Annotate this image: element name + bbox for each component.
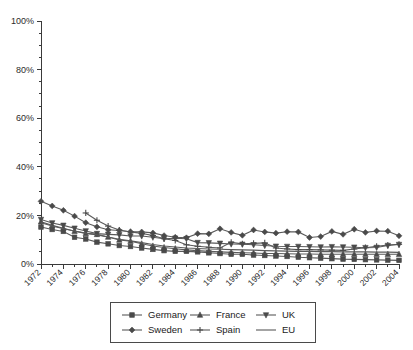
data-point-marker-square [397, 258, 402, 263]
x-axis-tick-label: 1992 [246, 267, 267, 288]
data-point-marker-diamond [396, 233, 402, 239]
legend-item-label: UK [282, 309, 296, 320]
legend-item-label: Sweden [148, 324, 182, 335]
data-point-marker-square [72, 235, 77, 240]
x-axis-tick-label: 1988 [201, 267, 222, 288]
data-point-marker-diamond [217, 226, 223, 232]
legend-item-label: EU [282, 324, 295, 335]
data-point-marker-diamond [307, 235, 313, 241]
data-point-marker-diamond [49, 203, 55, 209]
data-point-marker-diamond [295, 229, 301, 235]
x-axis-tick-label: 1984 [156, 267, 177, 288]
data-point-marker-diamond [273, 230, 279, 236]
x-axis-tick-label: 1996 [290, 267, 311, 288]
y-axis-tick-label: 20% [16, 211, 34, 221]
data-point-marker-diamond [239, 232, 245, 238]
data-point-marker-square [83, 237, 88, 242]
x-axis-tick-label: 1994 [268, 267, 289, 288]
data-point-marker-square [128, 244, 133, 249]
data-point-marker-diamond [363, 230, 369, 236]
data-point-marker-square [341, 257, 346, 262]
chart-container: 0%20%40%60%80%100%1972197419761978198019… [0, 0, 413, 350]
x-axis-tick-label: 1974 [44, 267, 65, 288]
x-axis-tick-label: 1998 [313, 267, 334, 288]
data-point-marker-diamond [60, 207, 66, 213]
data-point-marker-square [352, 257, 357, 262]
x-axis-tick-label: 2000 [335, 267, 356, 288]
line-chart: 0%20%40%60%80%100%1972197419761978198019… [0, 0, 413, 350]
data-point-marker-square [386, 258, 391, 263]
data-point-marker-diamond [374, 228, 380, 234]
x-axis-tick-label: 1990 [223, 267, 244, 288]
y-axis-tick-label: 40% [16, 162, 34, 172]
y-axis-tick-label: 100% [11, 16, 34, 26]
data-point-marker-square [330, 256, 335, 261]
legend-item-label: Spain [216, 324, 240, 335]
data-point-marker-diamond [340, 231, 346, 237]
x-axis-tick-label: 1986 [179, 267, 200, 288]
data-point-marker-square [130, 313, 135, 318]
data-point-marker-diamond [83, 220, 89, 226]
data-point-marker-diamond [195, 231, 201, 237]
data-point-marker-diamond [228, 230, 234, 236]
x-axis-tick-label: 1972 [22, 267, 43, 288]
data-point-marker-square [117, 243, 122, 248]
data-point-marker-square [39, 225, 44, 230]
data-point-marker-square [363, 257, 368, 262]
y-axis-tick-label: 60% [16, 113, 34, 123]
data-point-marker-square [374, 258, 379, 263]
data-point-marker-square [106, 242, 111, 247]
legend-item-label: Germany [148, 309, 187, 320]
data-point-marker-diamond [351, 226, 357, 232]
data-point-marker-diamond [385, 228, 391, 234]
data-point-marker-diamond [72, 213, 78, 219]
data-point-marker-diamond [251, 227, 257, 233]
data-point-marker-diamond [206, 231, 212, 237]
y-axis-tick-label: 0% [21, 259, 34, 269]
x-axis-tick-label: 1982 [134, 267, 155, 288]
legend-item-label: France [216, 309, 246, 320]
data-point-marker-diamond [329, 229, 335, 235]
x-axis-tick-label: 1980 [111, 267, 132, 288]
data-point-marker-diamond [318, 234, 324, 240]
data-point-marker-diamond [284, 229, 290, 235]
y-axis-tick-label: 80% [16, 65, 34, 75]
data-point-marker-diamond [94, 224, 100, 230]
x-axis-tick-label: 2002 [358, 267, 379, 288]
data-point-marker-diamond [262, 229, 268, 235]
chart-legend: GermanyFranceUKSwedenSpainEU [110, 302, 315, 342]
data-point-marker-square [95, 240, 100, 245]
x-axis-tick-label: 2004 [380, 267, 401, 288]
x-axis-tick-label: 1976 [67, 267, 88, 288]
x-axis-tick-label: 1978 [89, 267, 110, 288]
